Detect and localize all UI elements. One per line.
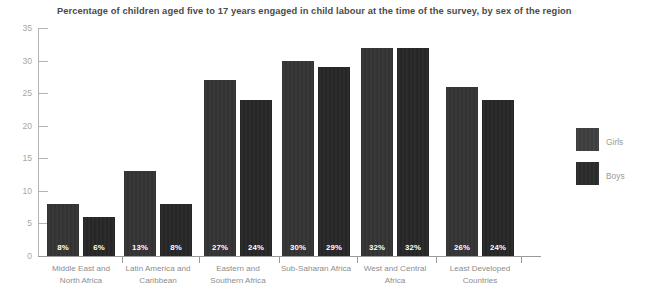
x-axis-group-label: Least DevelopedCountries: [435, 263, 525, 286]
group-label-line: Sub-Saharan Africa: [271, 263, 361, 275]
bar-boys: 32%: [397, 48, 429, 256]
group-label-line: Eastern and: [193, 263, 283, 275]
bar-value-label: 30%: [282, 243, 314, 252]
bar-value-label: 8%: [160, 243, 192, 252]
bar-girls: 8%: [47, 204, 79, 256]
y-axis-tick-label: 20: [2, 121, 32, 131]
y-axis-tick-label: 35: [2, 23, 32, 33]
group-label-line: Africa: [350, 275, 440, 287]
y-axis-tick-label: 5: [2, 218, 32, 228]
y-axis-tick-mark: [39, 158, 48, 159]
bar-boys: 8%: [160, 204, 192, 256]
bar-value-label: 27%: [204, 243, 236, 252]
bar-value-label: 32%: [361, 243, 393, 252]
bar-value-label: 6%: [83, 243, 115, 252]
bar-girls: 32%: [361, 48, 393, 256]
bar-value-label: 32%: [397, 243, 429, 252]
bar-boys: 29%: [318, 67, 350, 256]
bar-value-label: 8%: [47, 243, 79, 252]
bar-girls: 27%: [204, 80, 236, 256]
chart-container: Percentage of children aged five to 17 y…: [0, 0, 645, 294]
group-label-line: Latin America and: [113, 263, 203, 275]
group-label-line: Southern Africa: [193, 275, 283, 287]
y-axis-tick-mark: [39, 93, 48, 94]
group-label-line: West and Central: [350, 263, 440, 275]
y-axis-tick-label: 15: [2, 153, 32, 163]
bar-boys: 24%: [240, 100, 272, 256]
group-label-line: Caribbean: [113, 275, 203, 287]
bar-girls: 26%: [446, 87, 478, 256]
bar-value-label: 29%: [318, 243, 350, 252]
y-axis-tick-label: 25: [2, 88, 32, 98]
boys-swatch: [576, 162, 599, 185]
x-axis-group-label: Eastern andSouthern Africa: [193, 263, 283, 286]
bar-value-label: 26%: [446, 243, 478, 252]
y-axis-tick-mark: [39, 61, 48, 62]
x-axis-group-label: West and CentralAfrica: [350, 263, 440, 286]
group-label-line: Countries: [435, 275, 525, 287]
girls-swatch: [576, 128, 599, 151]
y-axis-tick-mark: [39, 191, 48, 192]
bar-value-label: 24%: [482, 243, 514, 252]
bar-boys: 6%: [83, 217, 115, 256]
bar-boys: 24%: [482, 100, 514, 256]
y-axis-tick-label: 10: [2, 186, 32, 196]
y-axis-tick-mark: [39, 126, 48, 127]
x-axis-group-label: Sub-Saharan Africa: [271, 263, 361, 275]
x-axis-line: [38, 256, 541, 257]
bar-girls: 30%: [282, 61, 314, 256]
bar-girls: 13%: [124, 171, 156, 256]
legend-label: Girls: [606, 137, 623, 147]
chart-title: Percentage of children aged five to 17 y…: [57, 6, 617, 17]
legend-label: Boys: [606, 171, 625, 181]
bar-value-label: 13%: [124, 243, 156, 252]
y-axis-tick-label: 0: [2, 251, 32, 261]
x-axis-group-label: Latin America andCaribbean: [113, 263, 203, 286]
y-axis-tick-label: 30: [2, 56, 32, 66]
bar-value-label: 24%: [240, 243, 272, 252]
group-label-line: Least Developed: [435, 263, 525, 275]
y-axis-tick-mark: [39, 28, 48, 29]
